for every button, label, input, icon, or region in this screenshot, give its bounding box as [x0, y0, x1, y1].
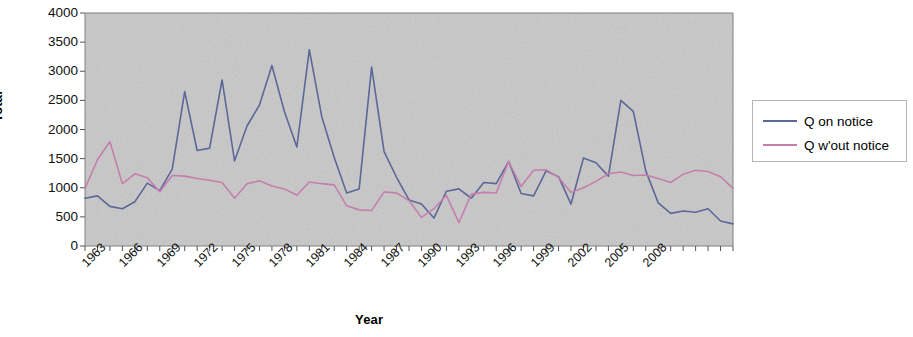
chart-legend: Q on notice Q w'out notice — [752, 100, 907, 162]
x-axis-title: Year — [355, 312, 383, 327]
legend-label-q-on-notice: Q on notice — [804, 114, 873, 129]
plot-background-texture — [85, 13, 733, 246]
legend-label-q-wout-notice: Q w'out notice — [804, 138, 889, 153]
legend-item-q-wout-notice: Q w'out notice — [753, 133, 906, 157]
y-tick-marks — [80, 13, 85, 246]
legend-swatch-q-wout-notice — [763, 144, 797, 146]
chart-container: Total 05001000150020002500300035004000 1… — [0, 0, 913, 337]
plot-area — [0, 0, 913, 337]
legend-item-q-on-notice: Q on notice — [753, 109, 906, 133]
legend-swatch-q-on-notice — [763, 120, 797, 122]
